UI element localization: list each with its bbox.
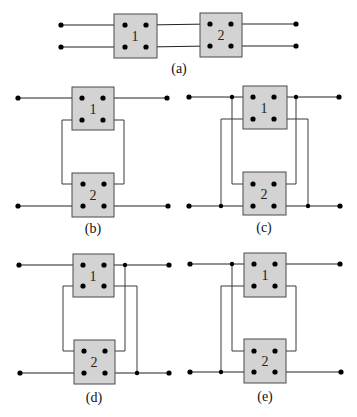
panel-e-parallel-series: 1 2 (e) <box>187 253 343 405</box>
network-1-label: 1 <box>90 102 97 117</box>
panel-c-caption: (c) <box>256 220 272 236</box>
panel-e-caption: (e) <box>257 389 273 405</box>
panel-d-series-parallel: 1 2 (d) <box>16 254 171 406</box>
network-2-label: 2 <box>218 28 225 43</box>
panel-a-cascade: 1 2 (a) <box>58 13 298 77</box>
network-1-label: 1 <box>132 29 139 44</box>
panel-a-caption: (a) <box>171 61 187 77</box>
panel-d-caption: (d) <box>86 390 103 406</box>
terminal-dots <box>58 21 298 49</box>
network-2-label: 2 <box>90 188 97 203</box>
panel-b-series-series: 1 2 (b) <box>15 87 170 237</box>
network-2-label: 2 <box>261 187 268 202</box>
panel-b-caption: (b) <box>85 221 102 237</box>
network-1-label: 1 <box>262 268 269 283</box>
network-1-label: 1 <box>261 101 268 116</box>
network-2-label: 2 <box>262 354 269 369</box>
panel-c-parallel-parallel: 1 2 (c) <box>186 86 342 236</box>
network-2-label: 2 <box>91 355 98 370</box>
network-1-label: 1 <box>90 269 97 284</box>
two-port-interconnection-diagram: 1 2 (a) 1 2 <box>0 0 357 417</box>
